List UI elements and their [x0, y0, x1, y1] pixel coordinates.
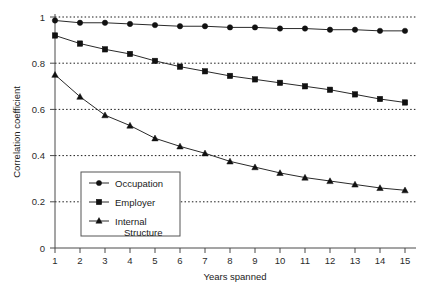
x-tick-label-11: 11 — [300, 255, 310, 266]
x-tick-label-9: 9 — [252, 255, 257, 266]
x-tick-label-5: 5 — [152, 255, 157, 266]
datapoint-employer-x14 — [377, 96, 382, 101]
x-tick-label-15: 15 — [400, 255, 411, 266]
x-tick-label-10: 10 — [275, 255, 286, 266]
datapoint-employer-x13 — [352, 92, 357, 97]
data-series-layer — [52, 18, 408, 193]
datapoint-occupation-x7 — [202, 24, 207, 29]
legend-label-occupation: Occupation — [115, 178, 163, 189]
x-axis-ticks — [55, 248, 405, 253]
datapoint-employer-x8 — [227, 73, 232, 78]
datapoint-internal-structure-x1 — [52, 72, 58, 78]
datapoint-occupation-x10 — [277, 26, 282, 31]
datapoint-occupation-x15 — [402, 28, 407, 33]
x-tick-label-7: 7 — [202, 255, 207, 266]
series-occupation — [52, 18, 407, 34]
x-tick-label-13: 13 — [350, 255, 361, 266]
x-tick-label-14: 14 — [375, 255, 386, 266]
datapoint-employer-x10 — [277, 80, 282, 85]
y-tick-label-0.4: 0.4 — [32, 150, 45, 161]
datapoint-occupation-x5 — [152, 22, 157, 27]
datapoint-occupation-x8 — [227, 25, 232, 30]
legend-label-internal-structure-line2: Structure — [124, 227, 163, 238]
datapoint-occupation-x14 — [377, 28, 382, 33]
x-tick-label-12: 12 — [325, 255, 336, 266]
datapoint-occupation-x13 — [352, 27, 357, 32]
x-axis-tick-labels: 1 2 3 4 5 6 7 8 9 10 11 12 13 14 15 — [52, 255, 410, 266]
legend-label-internal-structure-line1: Internal — [115, 216, 147, 227]
y-axis-tick-labels: 1 0.8 0.6 0.4 0.2 0 — [32, 12, 45, 254]
x-tick-label-3: 3 — [102, 255, 107, 266]
legend: Occupation Employer Internal Structure — [81, 172, 180, 238]
datapoint-employer-x2 — [77, 41, 82, 46]
x-tick-label-6: 6 — [177, 255, 182, 266]
x-tick-label-8: 8 — [227, 255, 232, 266]
legend-label-employer: Employer — [115, 197, 155, 208]
datapoint-occupation-x12 — [327, 27, 332, 32]
y-tick-label-1: 1 — [40, 12, 45, 23]
x-tick-label-2: 2 — [77, 255, 82, 266]
chart-figure: 1 0.8 0.6 0.4 0.2 0 Correlation coeffici… — [0, 0, 439, 291]
datapoint-internal-structure-x3 — [102, 112, 108, 118]
series-employer — [52, 33, 407, 105]
y-tick-label-0: 0 — [40, 243, 45, 254]
x-tick-label-4: 4 — [127, 255, 132, 266]
y-axis-ticks — [50, 17, 55, 248]
datapoint-occupation-x6 — [177, 24, 182, 29]
datapoint-employer-x5 — [152, 58, 157, 63]
datapoint-occupation-x1 — [52, 18, 57, 23]
y-tick-label-0.2: 0.2 — [32, 196, 45, 207]
legend-marker-square-icon — [96, 199, 101, 204]
datapoint-employer-x15 — [402, 100, 407, 105]
datapoint-internal-structure-x5 — [152, 135, 158, 141]
chart-canvas: 1 0.8 0.6 0.4 0.2 0 Correlation coeffici… — [0, 0, 439, 291]
datapoint-employer-x4 — [127, 51, 132, 56]
datapoint-employer-x11 — [302, 84, 307, 89]
datapoint-occupation-x4 — [127, 21, 132, 26]
y-tick-label-0.8: 0.8 — [32, 58, 45, 69]
datapoint-occupation-x3 — [102, 20, 107, 25]
datapoint-internal-structure-x4 — [127, 122, 133, 128]
legend-marker-circle-icon — [96, 180, 101, 185]
datapoint-employer-x9 — [252, 77, 257, 82]
x-tick-label-1: 1 — [52, 255, 57, 266]
datapoint-employer-x6 — [177, 64, 182, 69]
y-tick-label-0.6: 0.6 — [32, 104, 45, 115]
datapoint-employer-x7 — [202, 69, 207, 74]
datapoint-occupation-x2 — [77, 20, 82, 25]
y-axis-title: Correlation coefficient — [11, 86, 22, 178]
datapoint-employer-x1 — [52, 33, 57, 38]
datapoint-employer-x3 — [102, 47, 107, 52]
datapoint-occupation-x9 — [252, 25, 257, 30]
datapoint-employer-x12 — [327, 87, 332, 92]
datapoint-occupation-x11 — [302, 26, 307, 31]
x-axis-title: Years spanned — [203, 271, 266, 282]
